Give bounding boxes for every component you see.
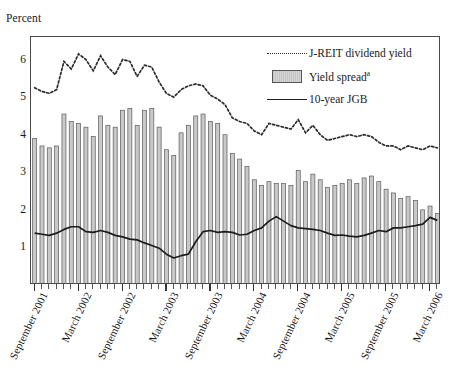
x-axis-tick-mark [100, 284, 101, 289]
x-axis-tick-mark [327, 284, 328, 289]
y-axis-title: Percent [6, 12, 41, 24]
x-axis-tick-mark [356, 284, 357, 289]
bar [391, 193, 395, 284]
footnote-marker: a [367, 69, 370, 78]
x-axis-tick-mark [370, 284, 371, 289]
bar [62, 114, 66, 284]
x-axis-tick-label: March 2004 [234, 290, 269, 344]
bar [282, 184, 286, 284]
y-axis-tick-label: 6 [10, 53, 26, 65]
x-axis-tick-label: March 2005 [322, 290, 357, 344]
bar [289, 185, 293, 284]
x-axis-tick-mark [85, 284, 86, 289]
x-axis-tick-mark [107, 284, 108, 289]
bar [164, 150, 168, 284]
x-axis-tick-mark [246, 284, 247, 289]
bar [157, 127, 161, 284]
bar [274, 184, 278, 284]
x-axis-tick-mark [180, 284, 181, 289]
bar [201, 114, 205, 284]
x-axis-tick-mark [56, 284, 57, 289]
legend-item-10-year-jgb: 10-year JGB [265, 89, 433, 109]
x-axis-tick-mark [261, 284, 262, 289]
y-axis-tick-label: 3 [10, 165, 26, 177]
x-axis-tick-mark [290, 284, 291, 289]
x-axis-tick-mark [41, 284, 42, 289]
bar [260, 185, 264, 284]
x-axis-tick-mark [348, 284, 349, 289]
bar [355, 184, 359, 284]
x-axis-tick-mark [70, 284, 71, 289]
x-axis-tick-mark [334, 284, 335, 289]
bar [238, 159, 242, 284]
x-axis-tick-label: September 2004 [270, 290, 313, 361]
x-axis-tick-mark [158, 284, 159, 289]
y-axis-tick-label: 5 [10, 90, 26, 102]
x-axis-tick-mark [319, 284, 320, 289]
bar [55, 146, 59, 284]
x-axis-tick-mark [224, 284, 225, 289]
bar [172, 155, 176, 284]
gray-box-icon [265, 70, 309, 83]
x-axis-tick-labels: September 2001March 2002September 2002Ma… [0, 290, 453, 378]
x-axis-tick-mark [407, 284, 408, 289]
bar [413, 200, 417, 284]
bar-series-yield-spread [33, 108, 440, 284]
x-axis-tick-mark [414, 284, 415, 289]
y-axis-tick-labels: 123456 [8, 36, 26, 284]
x-axis-tick-label: September 2003 [182, 290, 225, 361]
x-axis-tick-mark [392, 284, 393, 289]
x-axis-tick-mark [202, 284, 203, 289]
x-axis-tick-mark [63, 284, 64, 289]
x-axis-tick-mark [283, 284, 284, 289]
bar [208, 122, 212, 284]
x-axis-tick-label: September 2005 [358, 290, 401, 361]
bar [33, 138, 37, 284]
x-axis-tick-mark [114, 284, 115, 289]
bar [40, 146, 44, 284]
x-axis-tick-mark [143, 284, 144, 289]
bar [369, 176, 373, 284]
legend-item-jreit-dividend-yield: J-REIT dividend yield [265, 43, 433, 63]
bar [245, 167, 249, 284]
x-axis-tick-mark [187, 284, 188, 289]
legend-label-yield-spread: Yield spreada [309, 70, 370, 83]
bar [362, 178, 366, 284]
x-axis-tick-mark [275, 284, 276, 289]
x-axis-tick-mark [129, 284, 130, 289]
x-axis-tick-mark [363, 284, 364, 289]
y-axis-tick-label: 4 [10, 128, 26, 140]
bar [230, 153, 234, 284]
bar [91, 137, 95, 284]
bar [421, 210, 425, 284]
bar [435, 214, 439, 284]
y-axis-tick-label: 2 [10, 203, 26, 215]
x-axis-tick-mark [151, 284, 152, 289]
x-axis-tick-mark [48, 284, 49, 289]
bar [267, 182, 271, 284]
bar [106, 125, 110, 284]
bar [121, 110, 125, 284]
bar [194, 116, 198, 284]
bar [326, 187, 330, 284]
x-axis-tick-mark [239, 284, 240, 289]
bar [77, 123, 81, 284]
bar [406, 197, 410, 284]
bar [142, 110, 146, 284]
x-axis-tick-mark [173, 284, 174, 289]
bar [150, 108, 154, 284]
bar [47, 148, 51, 284]
legend-label-yield-spread-text: Yield spread [309, 70, 367, 82]
x-axis-tick-mark [195, 284, 196, 289]
bar [179, 133, 183, 284]
x-axis-tick-label: September 2001 [7, 290, 50, 361]
x-axis-tick-mark [436, 284, 437, 289]
x-axis-tick-mark [378, 284, 379, 289]
legend-label-10-year-jgb: 10-year JGB [309, 93, 367, 105]
chart-page: Percent 123456 September 2001March 2002S… [0, 0, 453, 379]
x-axis-tick-label: September 2002 [94, 290, 137, 361]
page-top-rule [6, 2, 438, 9]
x-axis-tick-mark [231, 284, 232, 289]
bar [135, 125, 139, 284]
x-axis-tick-label: March 2006 [410, 290, 445, 344]
